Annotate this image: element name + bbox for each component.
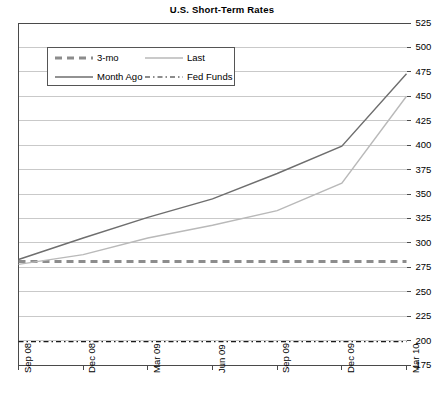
series-line <box>19 74 407 260</box>
series-line <box>19 96 407 264</box>
x-tick-label: Mar 09 <box>152 343 162 373</box>
legend-swatch-solid <box>144 52 184 64</box>
x-tick-label: Sep 08 <box>23 343 33 373</box>
series-lines <box>19 74 407 342</box>
chart-legend: 3-moLastMonth AgoFed Funds <box>47 47 235 86</box>
y-tick-label: 500 <box>416 42 432 52</box>
y-tick-label: 350 <box>416 189 432 199</box>
legend-item-month-ago: Month Ago <box>54 67 142 86</box>
legend-item-fed-funds: Fed Funds <box>144 67 232 86</box>
x-tick-label: Dec 09 <box>346 343 356 373</box>
x-tick-label: Mar 10 <box>411 343 421 373</box>
legend-swatch-dashed <box>54 52 94 64</box>
x-tick-label: Sep 09 <box>281 343 291 373</box>
x-tick-label: Jun 09 <box>217 344 227 373</box>
y-tick-label: 400 <box>416 140 432 150</box>
legend-label: Fed Funds <box>187 71 232 82</box>
legend-row: Month AgoFed Funds <box>48 67 234 86</box>
x-tick-label: Dec 08 <box>87 343 97 373</box>
legend-swatch-dashdot <box>144 71 184 83</box>
legend-label: Month Ago <box>97 71 142 82</box>
y-tick-label: 250 <box>416 287 432 297</box>
legend-item-3-mo: 3-mo <box>54 48 119 67</box>
y-tick-label: 450 <box>416 91 432 101</box>
legend-label: 3-mo <box>97 52 119 63</box>
legend-label: Last <box>187 52 205 63</box>
y-tick-label: 325 <box>416 213 432 223</box>
legend-swatch-solid <box>54 71 94 83</box>
y-tick-label: 300 <box>416 238 432 248</box>
y-tick-label: 225 <box>416 311 432 321</box>
chart-container: U.S. Short-Term Rates 525500475450425400… <box>0 0 444 418</box>
y-tick-label: 475 <box>416 67 432 77</box>
y-tick-label: 525 <box>416 18 432 28</box>
y-tick-label: 375 <box>416 165 432 175</box>
legend-row: 3-moLast <box>48 48 234 67</box>
legend-item-last: Last <box>144 48 205 67</box>
y-tick-label: 275 <box>416 262 432 272</box>
y-tick-label: 425 <box>416 116 432 126</box>
